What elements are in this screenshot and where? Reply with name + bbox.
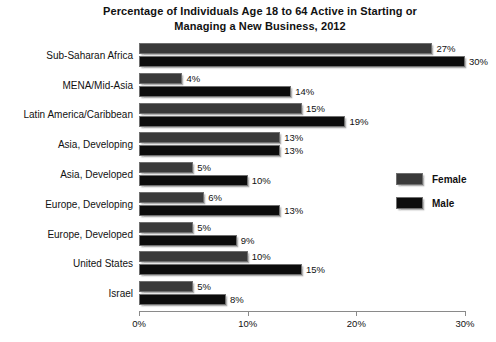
bar-value-label: 15% <box>302 264 325 275</box>
bar-female <box>139 222 193 233</box>
bar-value-label: 10% <box>248 251 271 262</box>
bar-row-male: 8% <box>139 294 244 305</box>
bar-row-male: 30% <box>139 56 488 67</box>
bar-row-female: 6% <box>139 192 222 203</box>
x-axis-tick <box>139 311 140 316</box>
bar-male <box>139 56 465 67</box>
bar-value-label: 15% <box>302 103 325 114</box>
bar-row-male: 13% <box>139 205 303 216</box>
bar-row-female: 5% <box>139 281 211 292</box>
bar-female <box>139 281 193 292</box>
bar-value-label: 5% <box>193 281 211 292</box>
legend-swatch-male-icon <box>396 197 423 209</box>
bar-value-label: 5% <box>193 162 211 173</box>
bar-group: 10%15% <box>139 250 465 280</box>
category-label: Sub-Saharan Africa <box>0 50 133 62</box>
x-axis-tick-label: 30% <box>455 318 474 330</box>
bar-female <box>139 162 193 173</box>
category-label: Europe, Developed <box>0 229 133 241</box>
x-axis-tick-label: 20% <box>347 318 366 330</box>
x-axis-tick <box>356 311 357 316</box>
bar-row-female: 27% <box>139 43 455 54</box>
legend-label-male: Male <box>432 198 454 209</box>
bar-value-label: 4% <box>182 73 200 84</box>
bar-female <box>139 43 432 54</box>
bar-female <box>139 132 280 143</box>
legend-swatch-female-icon <box>396 173 423 185</box>
bar-row-female: 13% <box>139 132 303 143</box>
bar-value-label: 13% <box>280 205 303 216</box>
category-axis: Sub-Saharan AfricaMENA/Mid-AsiaLatin Ame… <box>0 42 133 310</box>
x-axis-tick-label: 10% <box>238 318 257 330</box>
bar-value-label: 9% <box>237 235 255 246</box>
bar-female <box>139 103 302 114</box>
bar-group: 4%14% <box>139 72 465 102</box>
bar-value-label: 30% <box>465 56 488 67</box>
bar-row-female: 5% <box>139 222 211 233</box>
chart-legend: Female Male <box>396 170 466 218</box>
x-axis-line <box>139 311 465 312</box>
category-label: Latin America/Caribbean <box>0 109 133 121</box>
category-label: United States <box>0 258 133 270</box>
bar-row-female: 15% <box>139 103 325 114</box>
bar-value-label: 19% <box>345 116 368 127</box>
bar-male <box>139 175 248 186</box>
category-label: Israel <box>0 288 133 300</box>
bar-value-label: 8% <box>226 294 244 305</box>
bar-male <box>139 294 226 305</box>
bar-row-male: 15% <box>139 264 325 275</box>
category-label: Europe, Developing <box>0 199 133 211</box>
chart-title-line-2: Managing a New Business, 2012 <box>60 19 460 34</box>
bar-female <box>139 251 248 262</box>
bar-row-male: 19% <box>139 116 368 127</box>
bar-value-label: 13% <box>280 145 303 156</box>
bar-value-label: 10% <box>248 175 271 186</box>
category-label: Asia, Developing <box>0 139 133 151</box>
bar-group: 5%9% <box>139 221 465 251</box>
chart-title-line-1: Percentage of Individuals Age 18 to 64 A… <box>60 4 460 19</box>
bar-male <box>139 264 302 275</box>
bar-row-female: 5% <box>139 162 211 173</box>
bar-group: 27%30% <box>139 42 465 72</box>
chart-title: Percentage of Individuals Age 18 to 64 A… <box>60 4 460 34</box>
bar-row-male: 10% <box>139 175 271 186</box>
bar-male <box>139 235 237 246</box>
bar-male <box>139 86 291 97</box>
x-axis-tick <box>248 311 249 316</box>
bar-female <box>139 192 204 203</box>
bar-group: 15%19% <box>139 102 465 132</box>
bar-row-male: 14% <box>139 86 314 97</box>
x-axis-tick-label: 0% <box>132 318 146 330</box>
bar-male <box>139 205 280 216</box>
bar-group: 5%8% <box>139 280 465 310</box>
bar-row-male: 13% <box>139 145 303 156</box>
x-axis-tick <box>465 311 466 316</box>
bar-female <box>139 73 182 84</box>
category-label: MENA/Mid-Asia <box>0 80 133 92</box>
bar-row-female: 10% <box>139 251 271 262</box>
bar-row-female: 4% <box>139 73 200 84</box>
bar-male <box>139 145 280 156</box>
legend-item-female: Female <box>396 170 466 188</box>
bar-row-male: 9% <box>139 235 255 246</box>
bar-value-label: 14% <box>291 86 314 97</box>
bar-group: 13%13% <box>139 131 465 161</box>
bar-male <box>139 116 345 127</box>
bar-value-label: 5% <box>193 222 211 233</box>
legend-item-male: Male <box>396 194 466 212</box>
bar-value-label: 13% <box>280 132 303 143</box>
legend-label-female: Female <box>432 174 466 185</box>
bar-value-label: 6% <box>204 192 222 203</box>
bar-value-label: 27% <box>432 43 455 54</box>
category-label: Asia, Developed <box>0 169 133 181</box>
